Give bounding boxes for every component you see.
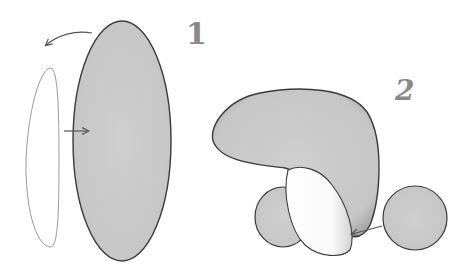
- filled-oval-shape: [73, 21, 171, 261]
- step-1-illustration: [26, 21, 171, 261]
- outline-oval-shape: [26, 68, 59, 247]
- step-1-number: 1: [186, 16, 207, 51]
- curved-arrow-icon: [46, 32, 92, 45]
- step-2-illustration: [212, 89, 447, 255]
- diagram-canvas: [0, 0, 476, 269]
- small-right-circle-shape: [383, 186, 447, 250]
- step-2-number: 2: [395, 74, 414, 107]
